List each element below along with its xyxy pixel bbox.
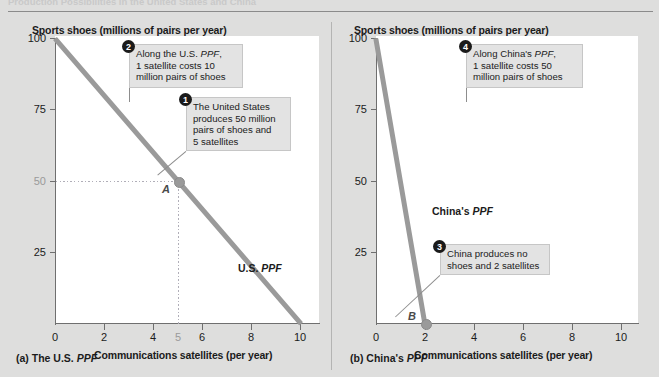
x-tick-10-china — [621, 324, 622, 330]
callout-2-line-1-italic: PPF — [201, 48, 220, 59]
y-label-50-china: 50 — [339, 175, 367, 187]
callout-4-line-1: Along China's PPF, — [473, 48, 577, 60]
x-tick-2-us — [104, 324, 105, 330]
callout-2-line-1b: , — [219, 48, 222, 59]
y-label-75-us: 75 — [18, 103, 46, 115]
y-tick-25-us — [50, 252, 56, 253]
y-axis-title-us: Sports shoes (millions of pairs per year… — [32, 24, 227, 36]
x-label-8-us: 8 — [243, 331, 259, 343]
callout-2-line-1a: Along the U.S. — [136, 48, 201, 59]
y-axis-title-china: Sports shoes (millions of pairs per year… — [354, 24, 549, 36]
x-tick-6-china — [523, 324, 524, 330]
figure-sheet: Production Possibilities in the United S… — [0, 0, 659, 377]
x-label-0-us: 0 — [47, 331, 63, 343]
x-axis-china — [376, 323, 639, 324]
callout-1-line-3: pairs of shoes and — [193, 124, 285, 136]
x-tick-8-china — [572, 324, 573, 330]
header-rule — [8, 11, 653, 12]
x-label-2-china: 2 — [417, 331, 433, 343]
x-axis-title-china: Communications satellites (per year) — [414, 349, 592, 361]
caption-panel-a-italic: PPF — [77, 352, 97, 364]
x-label-4-china: 4 — [466, 331, 482, 343]
callout-1-badge: 1 — [179, 93, 192, 106]
callout-2-line-2: 1 satellite costs 10 — [136, 60, 237, 72]
callout-2-leader — [129, 88, 130, 102]
callout-3-line-1: China produces no — [447, 248, 544, 260]
guide-line-vertical-us — [178, 182, 179, 324]
guide-line-horizontal-us — [56, 181, 178, 182]
point-b-label: B — [408, 310, 416, 322]
x-label-0-china: 0 — [368, 331, 384, 343]
point-a-marker — [174, 177, 185, 188]
y-tick-50-china — [371, 181, 377, 182]
y-label-100-us: 100 — [18, 32, 46, 44]
china-ppf-series-label-prefix: China's — [432, 205, 472, 217]
callout-4-line-2: 1 satellite costs 50 — [473, 60, 577, 72]
x-tick-4-china — [474, 324, 475, 330]
y-label-100-china: 100 — [339, 32, 367, 44]
callout-4-badge: 4 — [459, 40, 472, 53]
x-label-6-us: 6 — [194, 331, 210, 343]
callout-2-line-1: Along the U.S. PPF, — [136, 48, 237, 60]
caption-panel-a-prefix: (a) The U.S. — [16, 352, 77, 364]
callout-2-line-3: million pairs of shoes — [136, 71, 237, 83]
us-ppf-series-label-prefix: U.S. — [238, 262, 261, 274]
x-label-10-us: 10 — [292, 331, 308, 343]
callout-1-line-1: The United States — [193, 101, 285, 113]
callout-4-line-1b: , — [553, 48, 556, 59]
y-tick-75-china — [371, 109, 377, 110]
caption-panel-b-italic: PPF — [407, 352, 427, 364]
callout-1-box: The United States produces 50 million pa… — [186, 97, 291, 151]
caption-panel-a: (a) The U.S. PPF — [16, 352, 97, 364]
caption-panel-b: (b) China's PPF — [350, 352, 427, 364]
x-tick-6-us — [202, 324, 203, 330]
callout-3-badge: 3 — [433, 240, 446, 253]
panel-divider — [331, 22, 332, 370]
callout-4-line-1a: Along China's — [473, 48, 535, 59]
point-a-label: A — [162, 183, 170, 195]
callout-4-leader — [466, 88, 467, 102]
callout-4-box: Along China's PPF, 1 satellite costs 50 … — [466, 44, 583, 88]
y-tick-25-china — [371, 252, 377, 253]
y-label-25-china: 25 — [339, 246, 367, 258]
x-axis-title-us: Communications satellites (per year) — [94, 349, 272, 361]
x-label-5-us: 5 — [170, 331, 186, 343]
x-label-6-china: 6 — [515, 331, 531, 343]
point-b-marker — [421, 319, 432, 330]
callout-4-line-3: million pairs of shoes — [473, 71, 577, 83]
x-label-2-us: 2 — [96, 331, 112, 343]
y-label-75-china: 75 — [339, 103, 367, 115]
china-ppf-series-label: China's PPF — [432, 205, 493, 217]
callout-1-line-2: produces 50 million — [193, 113, 285, 125]
x-tick-4-us — [153, 324, 154, 330]
callout-3-line-2: shoes and 2 satellites — [447, 260, 544, 272]
y-label-25-us: 25 — [18, 246, 46, 258]
china-ppf-series-label-italic: PPF — [472, 205, 492, 217]
callout-2-badge: 2 — [122, 40, 135, 53]
y-label-50-us: 50 — [18, 175, 46, 187]
us-ppf-series-label: U.S. PPF — [238, 262, 282, 274]
x-tick-10-us — [300, 324, 301, 330]
panel-us-ppf: Sports shoes (millions of pairs per year… — [10, 22, 328, 370]
x-tick-8-us — [251, 324, 252, 330]
x-label-8-china: 8 — [564, 331, 580, 343]
x-axis-us — [55, 323, 320, 324]
x-label-4-us: 4 — [145, 331, 161, 343]
callout-2-box: Along the U.S. PPF, 1 satellite costs 10… — [129, 44, 243, 88]
callout-4-line-1-italic: PPF — [535, 48, 554, 59]
panel-china-ppf: Sports shoes (millions of pairs per year… — [336, 22, 649, 370]
x-label-10-china: 10 — [613, 331, 629, 343]
us-ppf-series-label-italic: PPF — [261, 262, 281, 274]
callout-1-line-4: 5 satellites — [193, 136, 285, 148]
caption-panel-b-prefix: (b) China's — [350, 352, 407, 364]
y-tick-75-us — [50, 109, 56, 110]
callout-3-box: China produces no shoes and 2 satellites — [440, 244, 550, 275]
cut-off-header: Production Possibilities in the United S… — [8, 0, 568, 5]
